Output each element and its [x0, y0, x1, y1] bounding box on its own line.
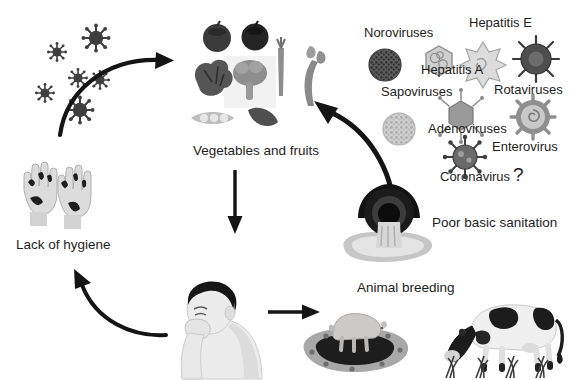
cow-illustration — [432, 292, 572, 380]
pig-illustration — [296, 300, 416, 380]
coronavirus-question-mark: ? — [513, 165, 524, 184]
label-enterovirus: Enterovirus — [492, 140, 558, 153]
arrow-produce-to-person — [222, 168, 248, 236]
transmission-cycle-figure: Vegetables and fruits — [0, 0, 581, 380]
label-vegetables: Vegetables and fruits — [193, 144, 319, 158]
label-hepatitis-a: Hepatitis A — [421, 63, 483, 76]
arrow-person-to-hygiene — [62, 263, 172, 351]
hands-illustration — [14, 156, 94, 232]
label-hepatitis-e: Hepatitis E — [469, 16, 532, 29]
label-rotavirus: Rotaviruses — [494, 83, 563, 96]
label-hygiene: Lack of hygiene — [16, 238, 111, 252]
label-coronavirus: Coronavirus — [440, 170, 510, 183]
cucumber-icon — [248, 108, 278, 126]
tomato-icon — [242, 21, 269, 51]
label-norovirus: Noroviruses — [364, 26, 433, 39]
person-illustration — [158, 275, 278, 380]
hand-icon — [58, 165, 91, 229]
sanitation-illustration — [334, 182, 444, 267]
arrow-viruses-to-produce — [52, 30, 192, 140]
carrot-icon — [277, 37, 285, 96]
rotavirus-icon — [513, 36, 559, 82]
enterovirus-icon — [511, 95, 555, 139]
label-adenovirus: Adenoviruses — [428, 122, 507, 135]
tomato-icon — [203, 21, 231, 52]
pea-pod-icon — [191, 112, 234, 124]
norovirus-icon — [369, 49, 401, 81]
hand-icon — [24, 162, 57, 226]
label-sanitation: Poor basic sanitation — [432, 216, 557, 230]
